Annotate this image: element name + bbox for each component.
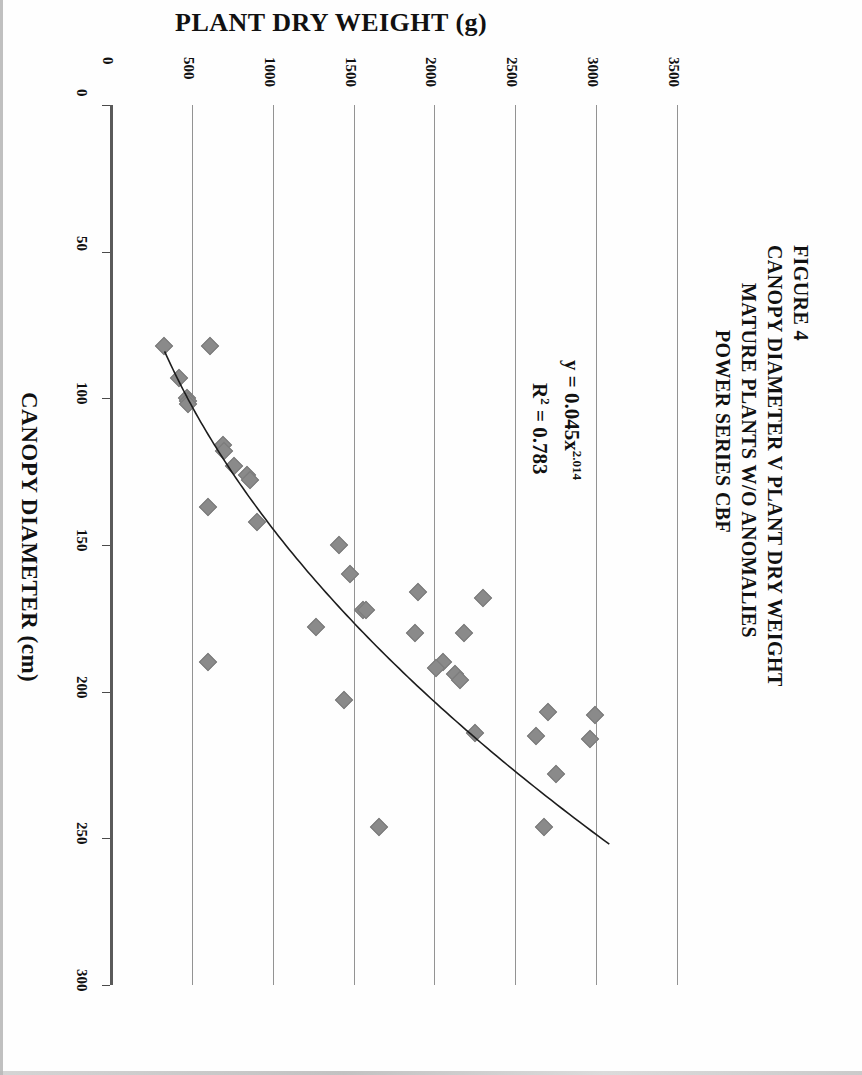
value-tick-label: 500: [180, 57, 197, 80]
data-point: [341, 565, 359, 583]
data-point: [474, 589, 492, 607]
tick-mark: [102, 838, 110, 839]
gridline: [677, 105, 678, 985]
value-tick-label: 1500: [342, 57, 359, 87]
data-point: [335, 691, 353, 709]
category-tick-label: 150: [73, 529, 90, 552]
data-point: [248, 512, 266, 530]
value-tick-label: 2000: [422, 57, 439, 87]
tick-mark: [102, 398, 110, 399]
data-point: [538, 703, 556, 721]
data-point: [527, 726, 545, 744]
data-point: [454, 624, 472, 642]
category-tick-label: 0: [73, 89, 90, 97]
category-tick-label: 100: [73, 382, 90, 405]
value-tick-label: 3000: [584, 57, 601, 87]
chart-plot: 0500100015002000250030003500 05010015020…: [0, 0, 862, 1075]
gridline: [354, 105, 355, 985]
value-tick-label: 3500: [665, 57, 682, 87]
tick-mark: [102, 692, 110, 693]
category-tick-label: 200: [73, 676, 90, 699]
data-point: [466, 724, 484, 742]
gridline: [515, 105, 516, 985]
data-point: [199, 653, 217, 671]
data-point: [170, 369, 188, 387]
plot-area: [110, 105, 676, 985]
category-tick-label: 50: [73, 236, 90, 251]
tick-mark: [102, 105, 110, 106]
gridline: [192, 105, 193, 985]
category-tick-label: 300: [73, 969, 90, 992]
category-axis-line: [111, 105, 113, 985]
data-point: [535, 817, 553, 835]
data-point: [409, 583, 427, 601]
data-point: [199, 498, 217, 516]
value-tick-label: 1000: [261, 57, 278, 87]
data-point: [547, 765, 565, 783]
category-tick-label: 250: [73, 822, 90, 845]
value-tick-label: 2500: [503, 57, 520, 87]
data-point: [307, 618, 325, 636]
tick-mark: [102, 545, 110, 546]
tick-mark: [102, 985, 110, 986]
gridline: [596, 105, 597, 985]
data-point: [370, 817, 388, 835]
gridline: [434, 105, 435, 985]
data-point: [585, 706, 603, 724]
data-point: [201, 336, 219, 354]
data-point: [406, 624, 424, 642]
data-point: [155, 336, 173, 354]
gridline: [273, 105, 274, 985]
data-point: [330, 536, 348, 554]
tick-mark: [102, 252, 110, 253]
value-tick-label: 0: [99, 57, 116, 65]
